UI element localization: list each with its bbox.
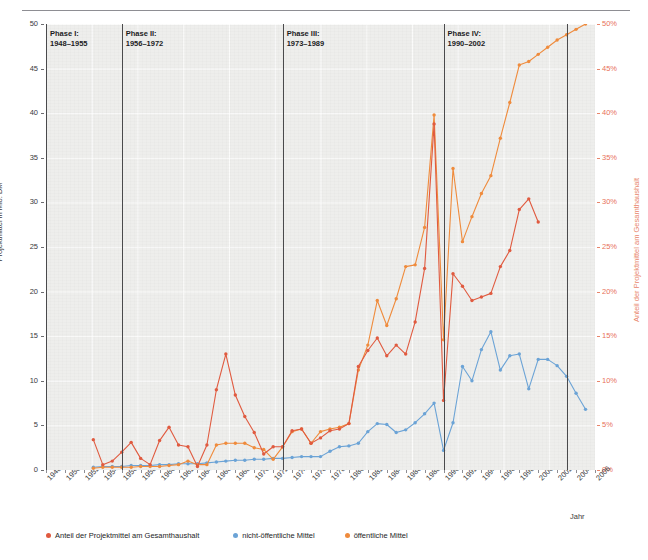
series-point: [224, 352, 227, 355]
series-point: [177, 463, 180, 466]
series-point: [366, 343, 369, 346]
series-oeffentliche-mittel: [92, 24, 588, 470]
legend-item[interactable]: Anteil der Projektmittel am Gesamthausha…: [46, 531, 199, 540]
series-point: [111, 466, 114, 469]
series-point: [574, 392, 577, 395]
series-point: [271, 445, 274, 448]
series-point: [243, 458, 246, 461]
y-axis-left-tick-mark: [41, 247, 44, 248]
phase-caption-name: Phase IV:: [448, 29, 486, 39]
legend-item[interactable]: öffentliche Mittel: [345, 531, 408, 540]
series-point: [92, 438, 95, 441]
series-point: [518, 208, 521, 211]
series-point: [205, 443, 208, 446]
series-point: [432, 122, 435, 125]
series-point: [527, 197, 530, 200]
series-point: [489, 330, 492, 333]
series-line: [93, 124, 538, 467]
series-point: [508, 354, 511, 357]
series-point: [139, 465, 142, 468]
series-point: [234, 393, 237, 396]
series-point: [470, 299, 473, 302]
series-point: [357, 365, 360, 368]
x-axis-minor-tick-mark: [207, 470, 208, 472]
y-axis-left-tick-mark: [41, 425, 44, 426]
y-axis-left-tick-label: 25: [8, 242, 38, 251]
series-point: [262, 458, 265, 461]
series-point: [499, 136, 502, 139]
phase-caption-name: Phase I:: [50, 29, 88, 39]
series-point: [555, 364, 558, 367]
x-axis-minor-tick-mark: [415, 470, 416, 472]
y-axis-right-tick-mark: [597, 381, 600, 382]
y-axis-left-tick-label: 40: [8, 108, 38, 117]
x-axis-title: Jahr: [570, 512, 585, 521]
phase-caption: Phase IV:1990–2002: [448, 29, 486, 49]
x-axis-minor-tick-mark: [169, 470, 170, 472]
y-axis-right-tick-label: 40%: [602, 108, 617, 117]
x-axis-minor-tick-mark: [188, 470, 189, 472]
y-axis-right-tick-label: 25%: [602, 242, 617, 251]
series-point: [537, 358, 540, 361]
series-point: [290, 456, 293, 459]
x-axis-minor-tick-mark: [302, 470, 303, 472]
series-point: [253, 458, 256, 461]
series-point: [489, 292, 492, 295]
x-axis-minor-tick-mark: [131, 470, 132, 472]
phase-divider-line: [46, 24, 47, 470]
series-point: [555, 38, 558, 41]
phase-caption-range: 1948–1955: [50, 39, 88, 49]
series-point: [470, 215, 473, 218]
legend-item[interactable]: nicht-öffentliche Mittel: [233, 531, 314, 540]
y-axis-right-tick-mark: [597, 158, 600, 159]
series-point: [271, 458, 274, 461]
y-axis-left-tick-mark: [41, 113, 44, 114]
x-axis-tick-mark: [160, 470, 161, 473]
phase-divider-line: [567, 24, 568, 470]
x-axis-minor-tick-mark: [358, 470, 359, 472]
y-axis-left-tick-label: 10: [8, 376, 38, 385]
series-point: [385, 324, 388, 327]
series-point: [215, 460, 218, 463]
series-point: [309, 455, 312, 458]
series-point: [537, 53, 540, 56]
x-axis-minor-tick-mark: [339, 470, 340, 472]
x-axis-minor-tick-mark: [150, 470, 151, 472]
series-point: [423, 412, 426, 415]
y-axis-left-tick-label: 0: [8, 465, 38, 474]
y-axis-right-tick-mark: [597, 336, 600, 337]
series-point: [186, 459, 189, 462]
series-point: [158, 465, 161, 468]
series-point: [461, 365, 464, 368]
series-point: [129, 441, 132, 444]
x-axis-minor-tick-mark: [321, 470, 322, 472]
phase-divider-line: [444, 24, 445, 470]
x-axis-tick-label: 2006: [594, 464, 612, 482]
y-axis-left-tick-mark: [41, 381, 44, 382]
phase-caption-name: Phase III:: [287, 29, 325, 39]
series-point: [196, 465, 199, 468]
series-point: [499, 368, 502, 371]
x-axis-tick-mark: [425, 470, 426, 473]
series-point: [451, 272, 454, 275]
series-anteil: [92, 122, 540, 468]
chart-page: Projektmittel in Mio. DM Anteil der Proj…: [0, 0, 648, 560]
y-axis-right-tick-mark: [597, 69, 600, 70]
x-axis-minor-tick-mark: [112, 470, 113, 472]
series-point: [129, 466, 132, 469]
series-point: [413, 320, 416, 323]
series-point: [139, 457, 142, 460]
series-point: [101, 463, 104, 466]
series-point: [499, 265, 502, 268]
series-point: [186, 445, 189, 448]
y-axis-right-tick-label: 10%: [602, 376, 617, 385]
series-point: [461, 240, 464, 243]
legend-label: öffentliche Mittel: [354, 531, 408, 540]
x-axis-minor-tick-mark: [55, 470, 56, 472]
phase-divider-line: [122, 24, 123, 470]
phase-caption-name: Phase II:: [126, 29, 164, 39]
series-point: [205, 463, 208, 466]
x-axis-minor-tick-mark: [226, 470, 227, 472]
series-point: [319, 455, 322, 458]
series-point: [376, 299, 379, 302]
